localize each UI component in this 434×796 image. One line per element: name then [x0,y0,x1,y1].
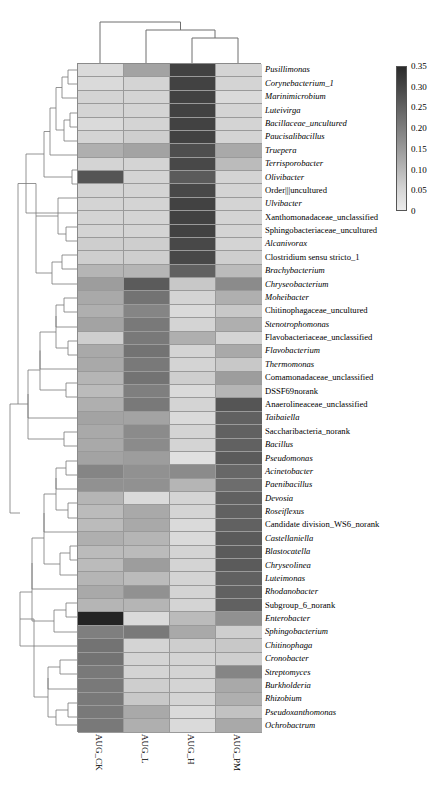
heatmap-cell [216,639,262,652]
heatmap-cell [216,118,262,131]
row-label: Brachybacterium [265,265,325,275]
row-label: Bacillus [265,439,293,449]
heatmap-cell [78,572,124,585]
heatmap-cell [216,666,262,679]
heatmap-cell [124,546,170,559]
heatmap-cell [124,91,170,104]
heatmap-cell [78,519,124,532]
row-label: DSSF69norank [265,386,318,396]
heatmap-cell [216,291,262,304]
heatmap-cell [170,198,216,211]
heatmap-cell [78,171,124,184]
heatmap-cell [216,479,262,492]
heatmap-cell [170,278,216,291]
heatmap-cell [170,452,216,465]
row-label: Olivibacter [265,172,304,182]
heatmap-cell [170,184,216,197]
heatmap-cell [170,131,216,144]
heatmap-cell [170,64,216,77]
heatmap-cell [216,719,262,732]
heatmap-cell [124,184,170,197]
heatmap-cell [216,532,262,545]
row-label: Enterobacter [265,613,310,623]
heatmap-cell [78,599,124,612]
heatmap-cell [170,572,216,585]
heatmap-cell [216,238,262,251]
heatmap-cell [170,211,216,224]
heatmap-cell [78,118,124,131]
heatmap-cell [124,291,170,304]
row-label: Chitinophagaceae_uncultured [265,305,368,315]
heatmap-cell [78,225,124,238]
heatmap-cell [170,398,216,411]
heatmap-cell [78,358,124,371]
column-label: AUG_H [186,734,196,765]
heatmap-cell [216,398,262,411]
heatmap-cell [170,305,216,318]
row-label: Alcanivorax [265,238,307,248]
heatmap-cell [216,77,262,90]
row-label: Blastocatella [265,546,310,556]
heatmap-cell [216,572,262,585]
row-label: Chryseolinea [265,560,311,570]
row-label: Luteimonas [265,573,305,583]
row-label: Cronobacter [265,653,309,663]
row-label: Acinetobacter [265,466,313,476]
heatmap-cell [216,519,262,532]
heatmap-cell [216,465,262,478]
heatmap-cell [170,612,216,625]
heatmap-cell [124,372,170,385]
heatmap-cell [170,479,216,492]
heatmap-cell [124,278,170,291]
heatmap-cell [170,291,216,304]
heatmap-cell [78,198,124,211]
heatmap-cell [78,425,124,438]
heatmap-cell [78,412,124,425]
heatmap-cell [216,318,262,331]
row-label: Paenibacillus [265,479,312,489]
heatmap-cell [170,492,216,505]
row-label: Pseudoxanthomonas [265,707,336,717]
heatmap-cell [124,251,170,264]
heatmap-cell [124,211,170,224]
heatmap-cell [78,505,124,518]
heatmap-cell [216,332,262,345]
heatmap-cell [78,693,124,706]
row-label: Subgroup_6_norank [265,600,335,610]
heatmap-cell [78,184,124,197]
column-label: AUG_CK [94,734,104,771]
heatmap-cell [124,225,170,238]
row-label: Sphingobacterium [265,626,328,636]
heatmap-cell [216,91,262,104]
heatmap-cell [78,238,124,251]
heatmap-cell [170,465,216,478]
heatmap-cell [78,265,124,278]
heatmap-cell [170,439,216,452]
heatmap-cell [78,345,124,358]
heatmap-cell [124,345,170,358]
heatmap-cell [78,706,124,719]
heatmap-cell [78,251,124,264]
heatmap-cell [170,238,216,251]
heatmap-cell [78,639,124,652]
heatmap-cell [124,198,170,211]
row-label: Moheibacter [265,292,309,302]
heatmap-cell [216,211,262,224]
heatmap-cell [78,492,124,505]
heatmap-cell [170,144,216,157]
heatmap-cell [124,559,170,572]
heatmap-cell [216,505,262,518]
column-label: AUG_PM [232,734,242,771]
heatmap-cell [216,305,262,318]
heatmap-cell [216,184,262,197]
heatmap-cell [216,546,262,559]
heatmap-cell [124,385,170,398]
heatmap-figure: PusillimonasCorynebacterium_1Marinimicro… [0,0,434,796]
heatmap-cell [78,653,124,666]
heatmap-cell [78,626,124,639]
heatmap-cell [216,679,262,692]
heatmap-cell [124,131,170,144]
heatmap-cell [124,425,170,438]
row-label: Clostridium sensu stricto_1 [265,252,360,262]
colorbar-tick-label: 0.15 [411,145,427,154]
